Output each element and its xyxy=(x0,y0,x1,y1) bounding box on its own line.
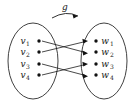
node-label-w3: w xyxy=(101,59,109,69)
node-dot-w2 xyxy=(94,50,97,53)
domain-ellipse xyxy=(8,23,58,99)
node-sub-v2: 2 xyxy=(26,51,30,58)
node-label-v2: v xyxy=(20,47,25,57)
node-dot-v4 xyxy=(37,73,40,76)
node-label-w2: w xyxy=(101,47,109,57)
edge-v4-w3-arrow-head xyxy=(82,62,88,67)
node-label-w4: w xyxy=(101,70,109,80)
edge-v3-w4-arrow-head xyxy=(82,74,88,79)
node-sub-w1: 1 xyxy=(110,40,114,47)
node-dot-w3 xyxy=(94,62,97,65)
edge-v1-w2-arrow-head xyxy=(82,51,88,56)
codomain-nodes: w 1 w 2 w 3 w 4 xyxy=(94,36,114,81)
map-label: g xyxy=(62,2,68,12)
node-sub-v1: 1 xyxy=(26,40,30,47)
node-sub-w3: 3 xyxy=(110,63,114,70)
domain-nodes: v 1 v 2 v 3 v 4 xyxy=(20,36,40,81)
node-sub-v3: 3 xyxy=(26,63,30,70)
function-mapping-diagram: g v 1 v 2 v 3 v xyxy=(0,0,132,106)
node-dot-v2 xyxy=(37,50,40,53)
node-dot-w1 xyxy=(94,39,97,42)
node-label-v3: v xyxy=(20,59,25,69)
node-dot-v1 xyxy=(37,39,40,42)
node-dot-v3 xyxy=(37,62,40,65)
node-label-v4: v xyxy=(20,70,25,80)
map-arrow-group xyxy=(52,13,78,18)
node-sub-w4: 4 xyxy=(110,74,114,81)
node-label-w1: w xyxy=(101,36,109,46)
node-label-v1: v xyxy=(20,36,25,46)
node-sub-w2: 2 xyxy=(110,51,114,58)
node-sub-v4: 4 xyxy=(26,74,30,81)
node-dot-w4 xyxy=(94,73,97,76)
